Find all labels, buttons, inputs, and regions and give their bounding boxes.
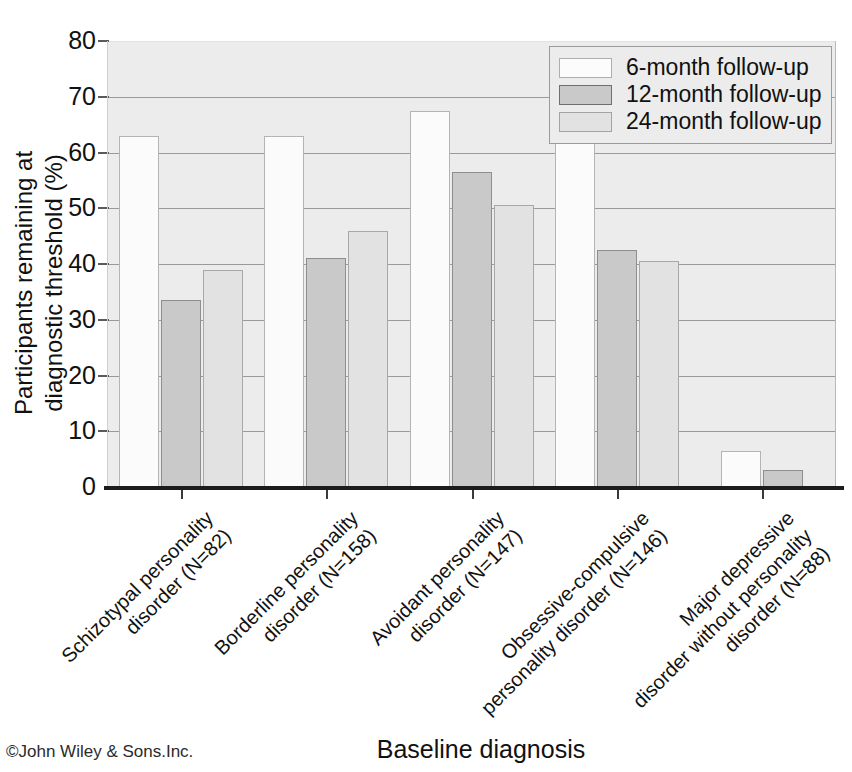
legend-swatch xyxy=(559,58,612,78)
x-tick-mark xyxy=(472,490,474,499)
y-tick-label: 80 xyxy=(38,28,96,53)
y-axis-title: Participants remaining at diagnostic thr… xyxy=(9,73,69,493)
bar xyxy=(348,231,388,487)
bar xyxy=(555,136,595,487)
y-axis-title-line-2: diagnostic threshold (%) xyxy=(39,73,69,493)
x-axis-title-text: Baseline diagnosis xyxy=(377,735,585,763)
bar xyxy=(161,300,201,487)
x-tick-mark xyxy=(326,490,328,499)
bar xyxy=(494,205,534,487)
x-tick-label: Avoidant personalitydisorder (N=147) xyxy=(258,506,527,772)
bar xyxy=(119,136,159,487)
legend-label: 6-month follow-up xyxy=(626,56,809,79)
bar-chart-figure: 01020304050607080 Schizotypal personalit… xyxy=(0,0,852,772)
legend: 6-month follow-up12-month follow-up24-mo… xyxy=(549,46,832,144)
bar xyxy=(452,172,492,487)
x-tick-mark xyxy=(617,490,619,499)
plot-right-border xyxy=(835,41,836,487)
bar xyxy=(306,258,346,487)
bar xyxy=(203,270,243,487)
legend-swatch xyxy=(559,112,612,132)
legend-item: 6-month follow-up xyxy=(559,54,821,81)
legend-item: 12-month follow-up xyxy=(559,81,821,108)
copyright-credit: ©John Wiley & Sons.Inc. xyxy=(6,742,193,762)
legend-item: 24-month follow-up xyxy=(559,108,821,135)
bar xyxy=(721,451,761,487)
y-axis-title-line-1: Participants remaining at xyxy=(9,73,39,493)
x-tick-mark xyxy=(181,490,183,499)
x-tick-mark xyxy=(762,490,764,499)
legend-label: 24-month follow-up xyxy=(626,110,822,133)
bar xyxy=(264,136,304,487)
x-tick-label: Borderline personalitydisorder (N=158) xyxy=(113,506,382,772)
y-axis-line xyxy=(107,41,108,488)
bar xyxy=(639,261,679,487)
legend-swatch xyxy=(559,85,612,105)
legend-label: 12-month follow-up xyxy=(626,83,822,106)
bar xyxy=(597,250,637,487)
bar xyxy=(410,111,450,487)
x-tick-label: Major depressivedisorder without persona… xyxy=(549,506,835,772)
bar xyxy=(763,470,803,487)
x-axis-line xyxy=(104,486,844,490)
